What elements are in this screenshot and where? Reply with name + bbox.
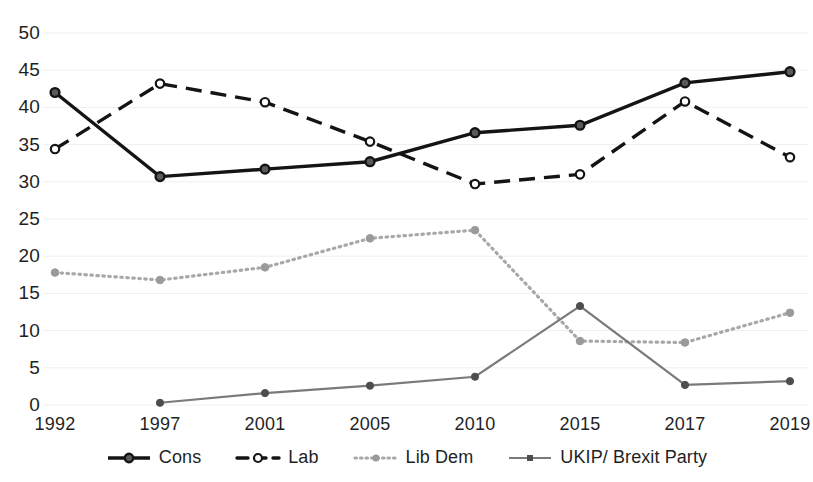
data-point-marker [576,121,585,130]
y-tick-label: 0 [0,394,40,416]
data-point-marker [786,67,795,76]
data-point-marker [261,165,270,174]
solid-line-filled-circle-marker [106,450,152,466]
x-tick-label: 2010 [435,414,515,435]
dashed-line-open-circle-marker [235,450,281,466]
y-tick-label: 15 [0,282,40,304]
data-point-marker [681,381,688,388]
legend-marker [527,455,533,461]
y-tick-label: 30 [0,171,40,193]
data-point-marker [681,97,689,105]
legend-item-cons[interactable]: Cons [106,447,201,468]
data-point-marker [366,235,374,243]
data-point-marker [576,302,583,309]
y-tick-label: 5 [0,357,40,379]
legend-marker [125,453,133,461]
plot-area [0,0,813,482]
legend-item-lib-dem[interactable]: Lib Dem [353,447,474,468]
data-point-marker [51,145,59,153]
data-point-marker [156,79,164,87]
legend-marker [372,454,379,461]
data-point-marker [366,157,375,166]
data-point-marker [576,337,584,345]
data-point-marker [156,399,163,406]
y-tick-label: 20 [0,245,40,267]
series-line [55,72,790,177]
x-tick-label: 2017 [645,414,725,435]
series-line [160,306,790,403]
data-point-marker [471,128,480,137]
data-point-marker [471,226,479,234]
line-chart: 50454035302520151050 1992199720012005201… [0,0,813,482]
y-tick-label: 40 [0,96,40,118]
gridlines [43,33,808,405]
data-point-marker [366,382,373,389]
legend-label: Cons [159,447,201,468]
data-point-marker [681,78,690,87]
legend-label: Lib Dem [406,447,474,468]
data-point-marker [786,153,794,161]
x-tick-label: 2001 [225,414,305,435]
x-tick-label: 1992 [15,414,95,435]
y-tick-label: 25 [0,208,40,230]
legend-item-lab[interactable]: Lab [235,447,318,468]
legend-label: UKIP/ Brexit Party [560,447,707,468]
legend-marker [254,454,262,462]
series-ukip-brexit-party [156,302,793,406]
y-tick-label: 35 [0,134,40,156]
data-point-marker [471,373,478,380]
data-point-marker [366,137,374,145]
data-point-marker [786,309,794,317]
chart-legend: ConsLabLib DemUKIP/ Brexit Party [0,447,813,468]
x-tick-label: 2015 [540,414,620,435]
y-tick-label: 45 [0,59,40,81]
series-line [55,230,790,342]
data-point-marker [261,389,268,396]
dotted-line-filled-circle-marker [353,450,399,466]
data-point-marker [681,339,689,347]
data-point-marker [786,378,793,385]
y-tick-label: 10 [0,320,40,342]
x-tick-label: 1997 [120,414,200,435]
data-point-marker [261,98,269,106]
data-point-marker [156,276,164,284]
legend-label: Lab [288,447,318,468]
data-point-marker [51,88,60,97]
series-lib-dem [51,226,794,346]
y-tick-label: 50 [0,22,40,44]
data-point-marker [576,170,584,178]
x-tick-label: 2019 [750,414,813,435]
data-point-marker [471,180,479,188]
x-tick-label: 2005 [330,414,410,435]
series-line [55,84,790,184]
data-point-marker [261,264,269,272]
data-point-marker [51,269,59,277]
data-point-marker [156,172,165,181]
solid-line-filled-square-marker [507,450,553,466]
legend-item-ukip-brexit-party[interactable]: UKIP/ Brexit Party [507,447,707,468]
